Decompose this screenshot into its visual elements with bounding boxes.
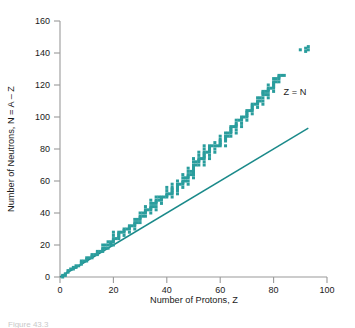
- scatter-marker: [192, 176, 195, 179]
- scatter-marker: [189, 173, 192, 176]
- scatter-marker: [261, 100, 264, 103]
- scatter-marker: [104, 244, 107, 247]
- y-axis-tick-labels: 020406080100120140160: [35, 16, 50, 282]
- scatter-marker: [205, 151, 208, 154]
- y-tick-label: 160: [35, 16, 50, 26]
- scatter-marker: [269, 87, 272, 90]
- scatter-marker: [123, 234, 126, 237]
- scatter-marker: [155, 205, 158, 208]
- scatter-marker: [272, 80, 275, 83]
- scatter-marker: [72, 266, 75, 269]
- scatter-marker: [235, 132, 238, 135]
- scatter-marker: [227, 135, 230, 138]
- scatter-marker: [240, 122, 243, 125]
- scatter-marker: [235, 122, 238, 125]
- scatter-marker: [197, 151, 200, 154]
- scatter-marker: [157, 196, 160, 199]
- scatter-marker: [277, 74, 280, 77]
- scatter-marker: [253, 103, 256, 106]
- scatter-marker: [91, 253, 94, 256]
- scatter-marker: [107, 240, 110, 243]
- scatter-marker: [227, 132, 230, 135]
- scatter-marker: [80, 260, 83, 263]
- scatter-plot: 020406080100120140160 020406080100 Z = N…: [0, 0, 355, 328]
- scatter-marker: [165, 189, 168, 192]
- scatter-marker: [219, 138, 222, 141]
- scatter-marker: [149, 199, 152, 202]
- scatter-marker: [139, 215, 142, 218]
- scatter-marker: [139, 221, 142, 224]
- scatter-marker: [171, 183, 174, 186]
- scatter-marker: [256, 96, 259, 99]
- scatter-marker: [99, 250, 102, 253]
- scatter-marker: [112, 237, 115, 240]
- scatter-marker: [192, 157, 195, 160]
- scatter-marker: [213, 151, 216, 154]
- y-tick-label: 120: [35, 80, 50, 90]
- x-tick-label: 100: [319, 285, 334, 295]
- scatter-marker: [229, 135, 232, 138]
- scatter-marker: [123, 228, 126, 231]
- scatter-marker: [213, 141, 216, 144]
- scatter-marker: [203, 160, 206, 163]
- z-equals-n-label: Z = N: [284, 87, 307, 97]
- scatter-marker: [195, 164, 198, 167]
- scatter-marker: [152, 205, 155, 208]
- scatter-marker: [248, 109, 251, 112]
- scatter-marker: [176, 192, 179, 195]
- scatter-marker: [61, 274, 64, 277]
- scatter-marker: [259, 100, 262, 103]
- scatter-marker: [224, 135, 227, 138]
- scatter-marker: [139, 212, 142, 215]
- scatter-marker: [160, 196, 163, 199]
- y-axis-ticks: [54, 21, 60, 277]
- scatter-marker: [280, 74, 283, 77]
- scatter-marker: [195, 160, 198, 163]
- scatter-marker: [245, 109, 248, 112]
- scatter-marker: [189, 170, 192, 173]
- scatter-marker: [272, 90, 275, 93]
- scatter-marker: [144, 208, 147, 211]
- scatter-markers: [61, 45, 310, 278]
- scatter-marker: [125, 228, 128, 231]
- scatter-marker: [267, 93, 270, 96]
- scatter-marker: [192, 164, 195, 167]
- scatter-marker: [163, 196, 166, 199]
- x-tick-label: 80: [269, 285, 279, 295]
- scatter-marker: [69, 268, 72, 271]
- y-tick-label: 0: [45, 272, 50, 282]
- x-axis-tick-labels: 020406080100: [57, 285, 334, 295]
- scatter-marker: [107, 244, 110, 247]
- scatter-marker: [203, 164, 206, 167]
- scatter-marker: [256, 106, 259, 109]
- scatter-marker: [141, 215, 144, 218]
- scatter-marker: [187, 183, 190, 186]
- scatter-marker: [235, 128, 238, 131]
- scatter-marker: [155, 196, 158, 199]
- scatter-marker: [176, 183, 179, 186]
- scatter-marker: [261, 96, 264, 99]
- scatter-marker: [144, 215, 147, 218]
- scatter-marker: [128, 224, 131, 227]
- scatter-marker: [165, 192, 168, 195]
- scatter-marker: [275, 80, 278, 83]
- scatter-marker: [197, 157, 200, 160]
- scatter-marker: [104, 247, 107, 250]
- scatter-marker: [176, 180, 179, 183]
- scatter-marker: [77, 264, 80, 267]
- scatter-marker: [256, 100, 259, 103]
- x-tick-label: 0: [57, 285, 62, 295]
- scatter-marker: [187, 167, 190, 170]
- scatter-marker: [187, 173, 190, 176]
- scatter-marker: [272, 77, 275, 80]
- scatter-marker: [85, 256, 88, 259]
- scatter-marker: [117, 231, 120, 234]
- scatter-marker: [112, 234, 115, 237]
- figure-container: 020406080100120140160 020406080100 Z = N…: [0, 0, 355, 328]
- y-tick-label: 60: [40, 176, 50, 186]
- scatter-marker: [133, 218, 136, 221]
- scatter-marker: [251, 112, 254, 115]
- scatter-marker: [243, 116, 246, 119]
- scatter-marker: [211, 144, 214, 147]
- scatter-marker: [251, 103, 254, 106]
